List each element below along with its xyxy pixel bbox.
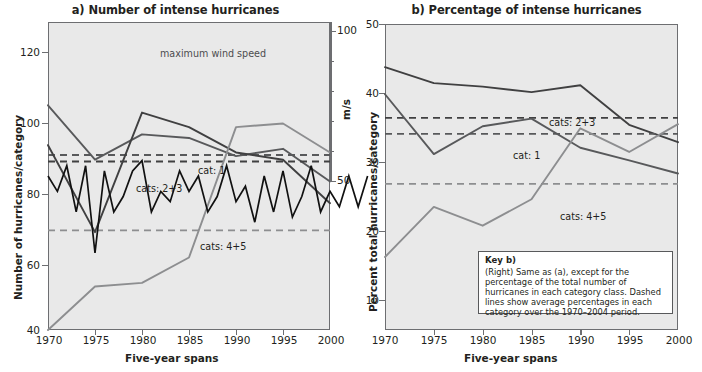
panel-b-xtick-1980: 1980 <box>462 334 504 346</box>
panel-a: a) Number of intense hurricanes Number o… <box>0 0 351 372</box>
panel-b-xtick-2000: 2000 <box>658 334 700 346</box>
panel-b-label-cat23: cats: 2+3 <box>549 117 595 128</box>
panel-a-xtickmark-1995 <box>283 330 284 335</box>
figure-root: a) Number of intense hurricanes Number o… <box>0 0 702 372</box>
panel-a-right-axis-line <box>330 22 332 182</box>
panel-a-xtick-1985: 1985 <box>169 334 211 346</box>
panel-b-xtickmark-1975 <box>434 330 435 335</box>
panel-a-xtick-1975: 1975 <box>75 334 117 346</box>
panel-a-xtickmark-1990 <box>236 330 237 335</box>
panel-b-xtick-1970: 1970 <box>364 334 406 346</box>
panel-a-ytick-60: 60 <box>6 259 40 271</box>
panel-a-rtickmark-60 <box>330 151 334 152</box>
panel-b-ytick-30: 30 <box>355 156 379 168</box>
panel-b-xtick-1985: 1985 <box>511 334 553 346</box>
panel-a-label-max-wind-speed: maximum wind speed <box>160 48 266 59</box>
panel-a-rtickmark-90 <box>330 61 334 62</box>
panel-b-key-box: Key b) (Right) Same as (a), except for t… <box>478 251 673 314</box>
panel-a-xtick-1990: 1990 <box>216 334 258 346</box>
panel-a-rtickmark-100 <box>330 31 336 32</box>
panel-b-ytick-50: 50 <box>355 18 379 30</box>
key-box-text: (Right) Same as (a), except for the perc… <box>485 267 667 318</box>
panel-a-ytick-100: 100 <box>6 117 40 129</box>
series-cat-1 <box>48 105 330 181</box>
panel-a-y-axis-title: Number of hurricanes/category <box>12 115 24 300</box>
panel-a-ytick-80: 80 <box>6 188 40 200</box>
panel-a-xtickmark-1980 <box>142 330 143 335</box>
panel-b-xtick-1995: 1995 <box>609 334 651 346</box>
panel-b-xtickmark-1995 <box>629 330 630 335</box>
panel-a-ytick-120: 120 <box>6 46 40 58</box>
panel-a-xtickmark-1975 <box>95 330 96 335</box>
panel-a-label-cat1: cat: 1 <box>198 165 225 176</box>
panel-a-title: a) Number of intense hurricanes <box>0 3 351 17</box>
panel-b-plot-area: cats: 2+3 cat: 1 cats: 4+5 Key b) (Right… <box>385 24 678 330</box>
panel-a-rtickmark-50 <box>330 181 336 182</box>
panel-b-ytick-10: 10 <box>355 294 379 306</box>
panel-b-xtick-1990: 1990 <box>560 334 602 346</box>
panel-a-xtickmark-1985 <box>189 330 190 335</box>
panel-b-label-cat1: cat: 1 <box>513 150 540 161</box>
panel-a-xtick-2000: 2000 <box>310 334 352 346</box>
panel-a-label-cat23: cats: 2+3 <box>136 183 182 194</box>
panel-a-xtick-1970: 1970 <box>28 334 70 346</box>
panel-a-plot-area: maximum wind speed cat: 1 cats: 2+3 cats… <box>48 22 330 330</box>
panel-b-ytick-20: 20 <box>355 225 379 237</box>
panel-a-xtick-1980: 1980 <box>122 334 164 346</box>
panel-a-series-layer <box>48 22 330 330</box>
panel-b-title: b) Percentage of intense hurricanes <box>351 3 702 17</box>
panel-b-xtickmark-1990 <box>580 330 581 335</box>
series-cats-2-3 <box>385 67 678 142</box>
panel-b-y-axis-title: Percent total hurricanes/category <box>367 112 379 312</box>
panel-a-label-cat45: cats: 4+5 <box>200 241 246 252</box>
panel-b-xtickmark-1985 <box>532 330 533 335</box>
panel-b-xtickmark-1980 <box>483 330 484 335</box>
key-box-title: Key b) <box>485 256 667 266</box>
panel-a-rtickmark-70 <box>330 121 334 122</box>
panel-a-x-axis-title: Five-year spans <box>125 352 219 364</box>
series-cats-4-5 <box>385 124 678 257</box>
panel-b-ytick-40: 40 <box>355 87 379 99</box>
panel-b-x-axis-title: Five-year spans <box>464 352 558 364</box>
panel-a-rtickmark-80 <box>330 91 334 92</box>
panel-b-label-cat45: cats: 4+5 <box>560 211 606 222</box>
panel-b-xtick-1975: 1975 <box>413 334 455 346</box>
panel-a-xtick-1995: 1995 <box>263 334 305 346</box>
panel-b: b) Percentage of intense hurricanes Perc… <box>351 0 702 372</box>
